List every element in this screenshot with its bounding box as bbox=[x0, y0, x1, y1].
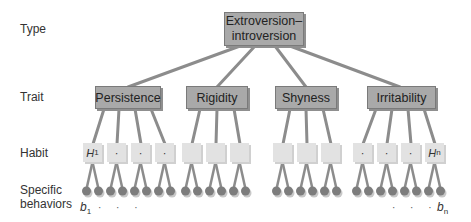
behavior-ellipsis-right: · · · bbox=[392, 202, 438, 213]
habit-ellipsis: · bbox=[163, 147, 167, 159]
trait-node-shyness: Shyness bbox=[275, 86, 337, 109]
habit-box: · bbox=[377, 143, 396, 162]
level-label-behaviors-1: Specific bbox=[20, 183, 62, 197]
type-node-line1: Extroversion– bbox=[226, 14, 302, 29]
habit-ellipsis: · bbox=[361, 147, 365, 159]
habit-ellipsis: · bbox=[409, 147, 413, 159]
habit-box: · bbox=[155, 143, 174, 162]
habit-box: · bbox=[107, 143, 126, 162]
habit-box bbox=[230, 143, 249, 162]
behavior-first-sub: 1 bbox=[87, 207, 91, 216]
behavior-first-symbol: b bbox=[80, 200, 87, 214]
behavior-last-sub: n bbox=[444, 207, 448, 216]
habit-first-symbol: H bbox=[86, 147, 94, 159]
habit-last-sub: n bbox=[436, 148, 440, 157]
habit-box-first: H1 bbox=[83, 143, 102, 162]
habit-last-symbol: H bbox=[428, 147, 436, 159]
habit-box: · bbox=[401, 143, 420, 162]
behavior-first-label: b1 bbox=[80, 200, 91, 216]
level-label-trait: Trait bbox=[20, 90, 44, 104]
trait-node-rigidity: Rigidity bbox=[186, 86, 248, 109]
habit-box bbox=[206, 143, 225, 162]
habit-box bbox=[321, 143, 340, 162]
level-label-habit: Habit bbox=[20, 146, 48, 160]
behavior-ellipsis-left: · · · bbox=[98, 202, 144, 213]
level-label-type: Type bbox=[20, 22, 46, 36]
habit-first-sub: 1 bbox=[94, 148, 98, 157]
habit-box: · bbox=[131, 143, 150, 162]
habit-box-last: Hn bbox=[425, 143, 444, 162]
behavior-last-symbol: b bbox=[437, 200, 444, 214]
habit-ellipsis: · bbox=[385, 147, 389, 159]
trait-node-irritability: Irritability bbox=[367, 86, 436, 109]
habit-ellipsis: · bbox=[139, 147, 143, 159]
habit-box bbox=[297, 143, 316, 162]
level-label-behaviors-2: behaviors bbox=[20, 197, 72, 211]
trait-node-persistence: Persistence bbox=[95, 86, 161, 109]
behavior-last-label: bn bbox=[437, 200, 448, 216]
type-node-line2: introversion bbox=[232, 29, 297, 44]
habit-ellipsis: · bbox=[115, 147, 119, 159]
habit-box bbox=[273, 143, 292, 162]
habit-box: · bbox=[353, 143, 372, 162]
habit-box bbox=[182, 143, 201, 162]
type-node-extroversion-introversion: Extroversion– introversion bbox=[224, 12, 304, 46]
